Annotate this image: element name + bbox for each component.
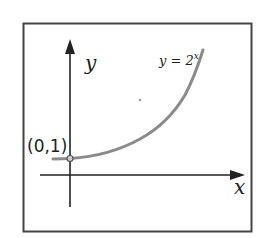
graph-canvas: y x (0,1) y = 2x (0, 0, 264, 238)
y-axis-arrow-icon (65, 39, 75, 54)
x-axis-label: x (234, 175, 245, 199)
y-axis-label: y (84, 51, 97, 75)
point-label: (0,1) (27, 136, 67, 156)
function-label: y = 2x (158, 51, 199, 68)
frame-border (24, 24, 252, 232)
function-label-exponent: x (194, 51, 199, 61)
function-label-base: y = 2 (158, 53, 194, 68)
exponential-graph-figure: y x (0,1) y = 2x (0, 0, 264, 238)
stray-dot (139, 99, 141, 101)
point-marker (67, 156, 73, 162)
